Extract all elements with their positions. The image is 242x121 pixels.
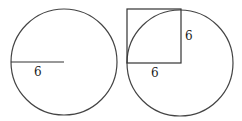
figure-circle-radius: 6 xyxy=(11,9,117,115)
radius-label: 6 xyxy=(34,65,42,79)
square-side-label-vertical: 6 xyxy=(185,29,193,43)
square-side-label-horizontal: 6 xyxy=(151,66,159,80)
figure-circle-square: 6 6 xyxy=(127,9,233,116)
geometry-diagram: 6 6 6 xyxy=(0,0,242,121)
